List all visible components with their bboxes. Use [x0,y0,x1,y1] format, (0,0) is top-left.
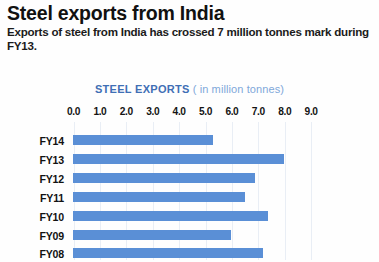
chart-row: FY12 [0,171,379,190]
y-axis-label: FY13 [12,154,64,166]
x-tick-label: 4.0 [173,106,186,117]
x-tick-label: 7.0 [252,106,265,117]
gridline [74,122,75,260]
gridline [126,122,127,260]
y-axis-label: FY12 [12,173,64,185]
gridline [153,122,154,260]
chart-title-main: STEEL EXPORTS [95,83,190,95]
gridline [179,122,180,260]
chart-row: FY14 [0,133,379,152]
infographic-page: Steel exports from India Exports of stee… [0,0,379,262]
x-tick-label: 6.0 [225,106,238,117]
chart-bar [73,211,268,221]
chart-row: FY08 [0,246,379,262]
page-title: Steel exports from India [7,2,224,25]
chart-row: FY11 [0,190,379,209]
chart-row: FY10 [0,209,379,228]
gridline [206,122,207,260]
x-tick-label: 5.0 [199,106,212,117]
page-subtitle: Exports of steel from India has crossed … [7,25,373,52]
gridline [311,122,312,260]
chart-row: FY09 [0,228,379,247]
gridline [285,122,286,260]
chart-bar [73,173,255,183]
x-tick-label: 0.0 [67,106,80,117]
x-tick-label: 9.0 [305,106,318,117]
chart-row: FY13 [0,152,379,171]
x-tick-label: 1.0 [93,106,106,117]
chart-title: STEEL EXPORTS ( in million tonnes) [0,83,379,95]
chart-bar [73,230,231,240]
y-axis-label: FY10 [12,211,64,223]
y-axis-label: FY11 [12,192,64,204]
y-axis-label: FY08 [12,248,64,260]
y-axis-label: FY09 [12,230,64,242]
chart-bar [73,248,263,258]
x-axis-ticks: 0.01.02.03.04.05.06.07.08.09.0 [0,106,379,119]
y-axis-label: FY14 [12,135,64,147]
gridline [100,122,101,260]
chart-bar [73,154,284,164]
chart-bar [73,192,245,202]
gridline [258,122,259,260]
gridline [232,122,233,260]
x-tick-label: 8.0 [278,106,291,117]
x-tick-label: 3.0 [146,106,159,117]
x-tick-label: 2.0 [120,106,133,117]
chart-bar [73,135,213,145]
chart-title-unit: ( in million tonnes) [193,83,284,95]
